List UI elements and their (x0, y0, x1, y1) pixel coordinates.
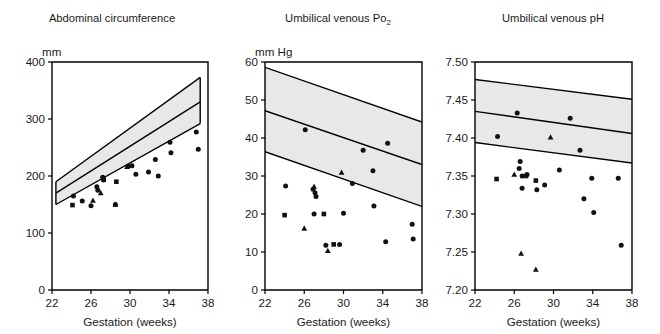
data-point-square (114, 179, 119, 184)
data-point-circle (80, 199, 85, 204)
x-tick-label: 38 (626, 296, 639, 309)
chart-panel-abdominal-circumference: Abdominal circumferencemm010020030040022… (0, 0, 220, 334)
chart-svg-2: Umbilical venous pH7.207.257.307.357.407… (437, 0, 657, 334)
y-tick-label: 300 (26, 112, 45, 125)
data-point-triangle (511, 171, 517, 176)
chart-svg-0: Abdominal circumferencemm010020030040022… (0, 0, 220, 334)
series-triangles (301, 169, 344, 253)
chart-panel-umbilical-venous-po2: Umbilical venous Po2mm Hg010203040506022… (220, 0, 440, 334)
data-point-circle (411, 237, 416, 242)
x-axis-label: Gestation (weeks) (83, 315, 177, 328)
y-tick-label: 7.30 (445, 207, 468, 220)
panel-title: Abdominal circumference (49, 12, 175, 24)
x-tick-label: 30 (337, 296, 350, 309)
reference-band (265, 67, 422, 206)
data-point-circle (515, 110, 520, 115)
y-tick-label: 60 (245, 55, 258, 68)
series-squares (282, 212, 336, 247)
x-axis-ticks: 2226303438 (46, 290, 215, 309)
y-tick-label: 10 (245, 245, 258, 258)
data-point-circle (581, 196, 586, 201)
data-point-circle (95, 188, 100, 193)
y-tick-label: 7.25 (445, 245, 468, 258)
reference-band (475, 79, 632, 163)
y-tick-label: 0 (252, 283, 258, 296)
y-axis-ticks: 0102030405060 (245, 55, 265, 296)
y-tick-label: 0 (39, 283, 45, 296)
data-point-square (534, 178, 539, 183)
data-point-circle (568, 116, 573, 121)
x-tick-label: 22 (259, 296, 272, 309)
data-point-triangle (301, 225, 307, 230)
y-tick-label: 7.40 (445, 131, 468, 144)
data-point-circle (314, 194, 319, 199)
x-tick-label: 38 (416, 296, 429, 309)
x-axis-ticks: 2226303438 (469, 290, 639, 309)
data-point-circle (520, 186, 525, 191)
data-point-triangle (518, 250, 524, 255)
data-point-circle (133, 172, 138, 177)
data-point-circle (153, 157, 158, 162)
data-point-circle (383, 239, 388, 244)
x-tick-label: 22 (469, 296, 482, 309)
data-point-circle (341, 211, 346, 216)
y-tick-label: 40 (245, 131, 258, 144)
y-tick-label: 7.20 (445, 283, 468, 296)
data-point-circle (129, 163, 134, 168)
data-point-triangle (90, 197, 96, 202)
data-point-circle (350, 181, 355, 186)
chart-panel-umbilical-venous-ph: Umbilical venous pH7.207.257.307.357.407… (437, 0, 657, 334)
y-tick-label: 7.35 (445, 169, 468, 182)
data-point-circle (385, 141, 390, 146)
data-point-circle (283, 183, 288, 188)
chart-svg-1: Umbilical venous Po2mm Hg010203040506022… (220, 0, 440, 334)
data-point-square (70, 203, 75, 208)
data-point-circle (370, 168, 375, 173)
y-tick-label: 20 (245, 207, 258, 220)
data-point-circle (534, 187, 539, 192)
x-tick-label: 26 (85, 296, 98, 309)
x-tick-label: 26 (298, 296, 311, 309)
data-point-triangle (325, 248, 331, 253)
data-point-circle (156, 174, 161, 179)
data-point-circle (323, 243, 328, 248)
data-point-circle (194, 130, 199, 135)
data-point-circle (89, 203, 94, 208)
y-axis-ticks: 0100200300400 (26, 55, 52, 296)
x-axis-ticks: 2226303438 (259, 290, 429, 309)
data-point-square (101, 177, 106, 182)
y-tick-label: 7.45 (445, 93, 468, 106)
data-point-square (494, 177, 499, 182)
data-point-circle (619, 243, 624, 248)
x-tick-label: 22 (46, 296, 59, 309)
data-point-circle (312, 212, 317, 217)
data-point-square (331, 242, 336, 247)
y-axis-ticks: 7.207.257.307.357.407.457.50 (445, 55, 475, 296)
x-tick-label: 34 (586, 296, 599, 309)
data-point-circle (146, 170, 151, 175)
y-tick-label: 200 (26, 169, 45, 182)
series-triangles (511, 134, 553, 272)
data-point-circle (557, 167, 562, 172)
data-point-circle (518, 159, 523, 164)
panel-title: Umbilical venous Po2 (285, 12, 391, 27)
data-point-circle (337, 242, 342, 247)
data-point-circle (542, 183, 547, 188)
data-point-circle (303, 127, 308, 132)
data-point-circle (517, 166, 522, 171)
x-tick-label: 26 (508, 296, 521, 309)
x-tick-label: 30 (124, 296, 137, 309)
y-tick-label: 400 (26, 55, 45, 68)
figure-container: Abdominal circumferencemm010020030040022… (0, 0, 660, 334)
data-point-circle (168, 150, 173, 155)
data-point-triangle (311, 184, 317, 189)
data-point-square (524, 174, 529, 179)
y-tick-label: 30 (245, 169, 258, 182)
data-point-circle (591, 210, 596, 215)
x-axis-label: Gestation (weeks) (507, 315, 601, 328)
x-tick-label: 38 (202, 296, 215, 309)
data-point-circle (577, 148, 582, 153)
data-point-triangle (533, 266, 539, 271)
data-point-circle (495, 134, 500, 139)
data-point-square (322, 212, 327, 217)
